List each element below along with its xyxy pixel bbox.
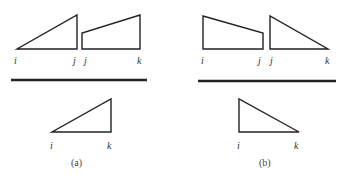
diagram-canvas: i j j k i k (a) i j j k i k (b) <box>0 0 342 175</box>
label-k: k <box>107 140 112 151</box>
label-k: k <box>137 55 142 66</box>
label-i: i <box>237 140 240 151</box>
label-j: j <box>256 55 261 66</box>
panel-a-trapezoid-jk <box>82 15 140 49</box>
label-k: k <box>294 140 299 151</box>
panel-a-triangle-ij <box>17 15 77 49</box>
panel-a: i j j k i k (a) <box>11 15 147 169</box>
panel-b-triangle-ik <box>239 99 299 132</box>
panel-b-triangle-jk <box>270 16 328 49</box>
panel-b-trapezoid-ij <box>203 16 263 49</box>
label-j: j <box>71 55 76 66</box>
panel-a-triangle-ik <box>52 99 111 132</box>
label-j: j <box>268 55 273 66</box>
panel-b: i j j k i k (b) <box>198 16 336 169</box>
label-i: i <box>201 55 204 66</box>
label-j: j <box>82 55 87 66</box>
panel-b-caption: (b) <box>259 157 271 169</box>
panel-a-caption: (a) <box>71 157 82 169</box>
label-i: i <box>14 55 17 66</box>
label-i: i <box>50 140 53 151</box>
label-k: k <box>325 55 330 66</box>
